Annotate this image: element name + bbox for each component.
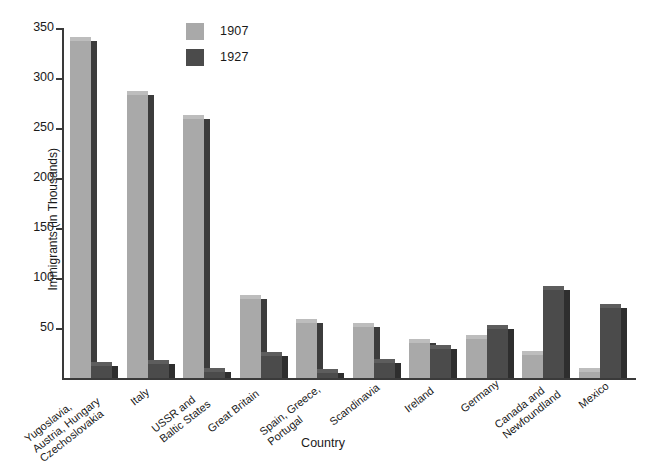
bar-side: [225, 372, 231, 378]
y-tick-label-300: 300: [14, 70, 54, 84]
bar-face: [353, 327, 374, 378]
bar-group: [579, 28, 627, 378]
bar-top: [409, 339, 430, 343]
x-category-label: Mexico: [576, 380, 611, 411]
bar-side: [451, 349, 457, 378]
bar-1907: [522, 355, 543, 378]
x-category-label: Yugoslavia,Austria, HungaryCzechoslovaki…: [22, 384, 110, 463]
bar-group: [522, 28, 570, 378]
bar-group: [240, 28, 288, 378]
bar-face: [183, 119, 204, 378]
bar-side: [282, 356, 288, 378]
bar-side: [338, 373, 344, 378]
bar-side: [169, 364, 175, 378]
bar-group: [409, 28, 457, 378]
bar-face: [409, 343, 430, 378]
bar-group: [70, 28, 118, 378]
bar-top: [543, 286, 564, 290]
x-category-label: Canada andNewfoundland: [492, 378, 563, 441]
bar-1907: [240, 299, 261, 378]
bar-1927: [487, 329, 508, 378]
bar-group: [127, 28, 175, 378]
x-category-label-line: Germany: [458, 377, 501, 415]
bar-top: [353, 323, 374, 327]
bar-top: [430, 345, 451, 349]
bar-face: [543, 290, 564, 378]
bar-1907: [579, 372, 600, 378]
bar-top: [522, 351, 543, 355]
bar-face: [70, 41, 91, 378]
bar-face: [148, 364, 169, 378]
bar-1907: [353, 327, 374, 378]
bar-1907: [70, 41, 91, 378]
bar-group: [353, 28, 401, 378]
immigration-bar-chart: 1907 1927 Immigrants (in Thousands) 5010…: [0, 0, 646, 463]
bar-1927: [204, 372, 225, 378]
bar-top: [148, 360, 169, 364]
bar-1927: [430, 349, 451, 378]
x-axis-title: Country: [0, 436, 646, 450]
bar-1927: [91, 366, 112, 378]
bar-face: [261, 356, 282, 378]
bar-side: [564, 290, 570, 378]
x-category-label: Ireland: [402, 384, 436, 415]
bar-1907: [127, 95, 148, 378]
x-category-label-line: Ireland: [402, 384, 436, 415]
bar-face: [466, 339, 487, 378]
bar-group: [296, 28, 344, 378]
bar-1927: [374, 363, 395, 378]
bar-top: [204, 368, 225, 372]
bar-face: [579, 372, 600, 378]
x-category-label-line: Mexico: [576, 380, 611, 411]
bar-face: [430, 349, 451, 378]
y-tick-label-350: 350: [14, 20, 54, 34]
bar-face: [374, 363, 395, 378]
bar-1927: [600, 308, 621, 378]
bar-top: [487, 325, 508, 329]
x-category-label: Scandinavia: [327, 381, 382, 428]
bar-top: [261, 352, 282, 356]
x-axis-line: [62, 378, 636, 380]
bar-1907: [183, 119, 204, 378]
y-tick-label-50: 50: [14, 320, 54, 334]
y-tick-label-250: 250: [14, 120, 54, 134]
bar-group: [466, 28, 514, 378]
bar-face: [600, 308, 621, 378]
bar-side: [112, 366, 118, 378]
bar-side: [148, 95, 154, 378]
bar-top: [70, 37, 91, 41]
bar-1907: [409, 343, 430, 378]
bar-side: [204, 119, 210, 378]
bar-top: [466, 335, 487, 339]
bar-face: [127, 95, 148, 378]
bar-top: [240, 295, 261, 299]
bar-side: [621, 308, 627, 378]
bar-face: [487, 329, 508, 378]
bar-side: [91, 41, 97, 378]
x-category-label: Italy: [128, 385, 152, 407]
bar-face: [91, 366, 112, 378]
y-tick-label-150: 150: [14, 220, 54, 234]
bar-top: [374, 359, 395, 363]
bar-face: [522, 355, 543, 378]
bar-top: [91, 362, 112, 366]
bar-1927: [543, 290, 564, 378]
bar-1907: [296, 323, 317, 378]
x-category-label-line: Italy: [128, 385, 152, 407]
x-category-label: Great Britain: [205, 387, 261, 435]
bar-1927: [148, 364, 169, 378]
bar-top: [600, 304, 621, 308]
bar-top: [317, 369, 338, 373]
bar-top: [296, 319, 317, 323]
x-category-label-line: Great Britain: [205, 387, 261, 435]
bar-groups: [62, 28, 636, 378]
bar-1907: [466, 339, 487, 378]
bar-face: [204, 372, 225, 378]
bar-side: [395, 363, 401, 378]
bar-top: [579, 368, 600, 372]
bar-face: [317, 373, 338, 378]
x-category-label-line: Scandinavia: [327, 381, 382, 428]
bar-face: [296, 323, 317, 378]
bar-1927: [317, 373, 338, 378]
y-tick-label-100: 100: [14, 270, 54, 284]
